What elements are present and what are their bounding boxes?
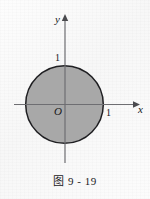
y-axis-arrowhead <box>62 14 68 21</box>
figure-caption: 图 9 - 19 <box>0 172 150 188</box>
x-axis-tick-label-1: 1 <box>106 108 111 118</box>
y-axis-tick-label-1: 1 <box>55 53 60 63</box>
origin-label: O <box>54 106 62 117</box>
y-axis-label: y <box>55 14 60 25</box>
x-axis-label: x <box>138 104 143 115</box>
figure-container: y x O 1 1 图 9 - 19 <box>0 0 150 199</box>
coordinate-plot <box>0 0 150 199</box>
